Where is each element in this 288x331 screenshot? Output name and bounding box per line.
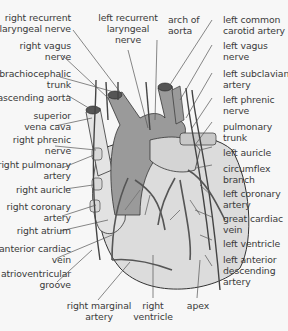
label-right-pulmonary-artery: right pulmonaryartery <box>0 159 71 181</box>
label-left-recurrent-laryngeal-nerve: left recurrentlaryngealnerve <box>92 12 164 45</box>
label-right-ventricle: rightventricle <box>130 300 176 322</box>
label-right-coronary-artery: right coronaryartery <box>7 201 71 223</box>
label-right-marginal-artery: right marginalartery <box>60 300 138 322</box>
label-superior-vena-cava: superiorvena cava <box>24 110 71 132</box>
label-left-ventricle: left ventricle <box>223 238 280 249</box>
label-right-vagus-nerve: right vagusnerve <box>19 40 71 62</box>
label-right-phrenic-nerve: right phrenicnerve <box>13 134 71 156</box>
label-right-recurrent-laryngeal-nerve: right recurrentlaryngeal nerve <box>0 12 71 34</box>
label-left-coronary-artery: left coronaryartery <box>223 188 281 210</box>
label-pulmonary-trunk: pulmonarytrunk <box>223 121 272 143</box>
label-right-atrium: right atrium <box>17 225 71 236</box>
label-apex: apex <box>183 300 213 311</box>
label-left-auricle: left auricle <box>223 147 271 158</box>
label-brachiocephalic-trunk: brachiocephalictrunk <box>0 68 71 90</box>
label-atrioventricular-groove: atrioventriculargroove <box>1 268 71 290</box>
label-ascending-aorta: ascending aorta <box>0 92 71 103</box>
label-left-phrenic-nerve: left phrenicnerve <box>223 94 275 116</box>
label-right-auricle: right auricle <box>16 184 71 195</box>
label-left-subclavian-artery: left subclavianartery <box>223 68 288 90</box>
label-left-anterior-descending-artery: left anteriordescendingartery <box>223 254 277 287</box>
label-anterior-cardiac-vein: anterior cardiacvein <box>0 243 71 265</box>
label-circumflex-branch: circumflexbranch <box>223 163 270 185</box>
label-left-vagus-nerve: left vagusnerve <box>223 40 268 62</box>
heart-diagram: right recurrentlaryngeal nerve right vag… <box>0 0 288 331</box>
label-arch-of-aorta: arch ofaorta <box>168 14 200 36</box>
label-great-cardiac-vein: great cardiacvein <box>223 213 283 235</box>
label-left-common-carotid-artery: left commoncarotid artery <box>223 14 285 36</box>
